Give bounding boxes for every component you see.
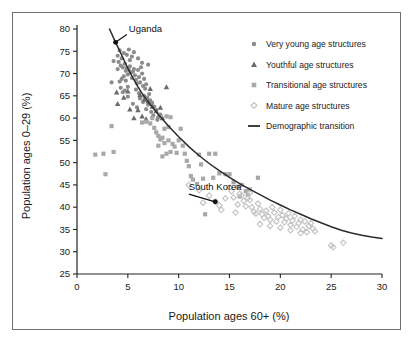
data-point (267, 223, 273, 229)
data-point (147, 92, 151, 96)
data-point (103, 172, 107, 176)
data-point (160, 154, 164, 158)
y-tick-label: 75 (59, 46, 70, 57)
data-point (146, 63, 150, 67)
legend-label: Very young age structures (266, 39, 366, 49)
data-point (187, 164, 191, 168)
data-point (199, 162, 203, 166)
data-point (125, 53, 129, 57)
series-square (93, 114, 260, 216)
legend-marker-triangle (251, 62, 257, 67)
data-point (286, 211, 292, 217)
data-point (152, 126, 156, 130)
data-point (298, 230, 304, 236)
data-point (271, 210, 277, 216)
data-point (149, 110, 153, 114)
data-point (140, 120, 144, 124)
data-point (278, 225, 284, 231)
data-point (124, 79, 128, 83)
x-tick-label: 5 (125, 281, 130, 292)
legend-item-line[interactable]: Demographic transition (248, 121, 355, 131)
data-point (128, 58, 132, 62)
data-point (168, 115, 172, 119)
data-point (147, 86, 153, 91)
scatter-chart: 253035404550556065707580051015202530 Uga… (0, 0, 415, 344)
legend-marker-circle (252, 42, 257, 47)
data-point (131, 102, 135, 106)
legend-label: Youthful age structures (266, 60, 354, 70)
y-tick-label: 70 (59, 68, 70, 79)
data-point (259, 212, 265, 218)
data-point (189, 174, 193, 178)
data-point (139, 114, 145, 119)
data-point (175, 151, 179, 155)
data-point (109, 124, 113, 128)
legend-item-square[interactable]: Transitional age structures (252, 80, 367, 90)
data-point (296, 220, 302, 226)
legend-label: Mature age structures (266, 101, 350, 111)
data-point (109, 80, 113, 84)
y-axis-title: Population ages 0–29 (%) (20, 93, 32, 220)
data-point (144, 107, 148, 111)
data-point (138, 80, 142, 84)
data-point (256, 176, 260, 180)
data-point (140, 61, 144, 65)
x-tick-label: 30 (377, 281, 388, 292)
legend-marker-square (252, 83, 257, 88)
legend-item-triangle[interactable]: Youthful age structures (251, 60, 354, 70)
data-point (127, 47, 131, 51)
data-point (121, 65, 125, 69)
annotations: UgandaSouth Korea (113, 23, 242, 204)
data-point (126, 95, 130, 99)
data-point (164, 84, 170, 89)
legend-marker-diamond (251, 103, 257, 109)
data-point (341, 240, 347, 246)
data-point (158, 105, 164, 110)
data-point (116, 54, 120, 58)
data-point (213, 152, 217, 156)
data-point (173, 145, 177, 149)
data-point (134, 87, 138, 91)
data-point (132, 50, 136, 54)
data-point (235, 202, 241, 208)
x-tick-label: 0 (74, 281, 79, 292)
data-point (156, 134, 160, 138)
annotation-point (113, 40, 118, 45)
legend[interactable]: Very young age structuresYouthful age st… (248, 39, 367, 131)
data-point (127, 106, 133, 111)
y-tick-label: 60 (59, 112, 70, 123)
data-point (118, 79, 122, 83)
data-point (166, 138, 170, 142)
data-point (144, 82, 148, 86)
legend-item-circle[interactable]: Very young age structures (252, 39, 366, 49)
data-point (263, 208, 269, 214)
data-point (136, 56, 140, 60)
data-point (223, 196, 229, 202)
data-point (155, 118, 159, 122)
data-point (139, 65, 143, 69)
legend-item-diamond[interactable]: Mature age structures (251, 101, 350, 111)
data-point (181, 144, 185, 148)
data-point (101, 152, 105, 156)
y-tick-label: 35 (59, 224, 70, 235)
data-point (233, 210, 239, 216)
data-point (162, 141, 166, 145)
data-point (282, 220, 288, 226)
data-point (150, 116, 154, 120)
y-tick-label: 65 (59, 90, 70, 101)
data-point (115, 101, 121, 106)
x-tick-label: 25 (326, 281, 337, 292)
y-tick-label: 30 (59, 246, 70, 257)
x-axis-title: Population ages 60+ (%) (169, 310, 290, 322)
data-point (154, 130, 158, 134)
data-point (231, 195, 237, 201)
data-point (203, 212, 207, 216)
data-point (284, 216, 290, 222)
data-point (278, 207, 284, 213)
data-point (183, 152, 187, 156)
data-point (148, 121, 152, 125)
data-point (143, 87, 147, 91)
data-point (185, 159, 189, 163)
data-point (126, 85, 130, 89)
data-point (131, 115, 137, 120)
